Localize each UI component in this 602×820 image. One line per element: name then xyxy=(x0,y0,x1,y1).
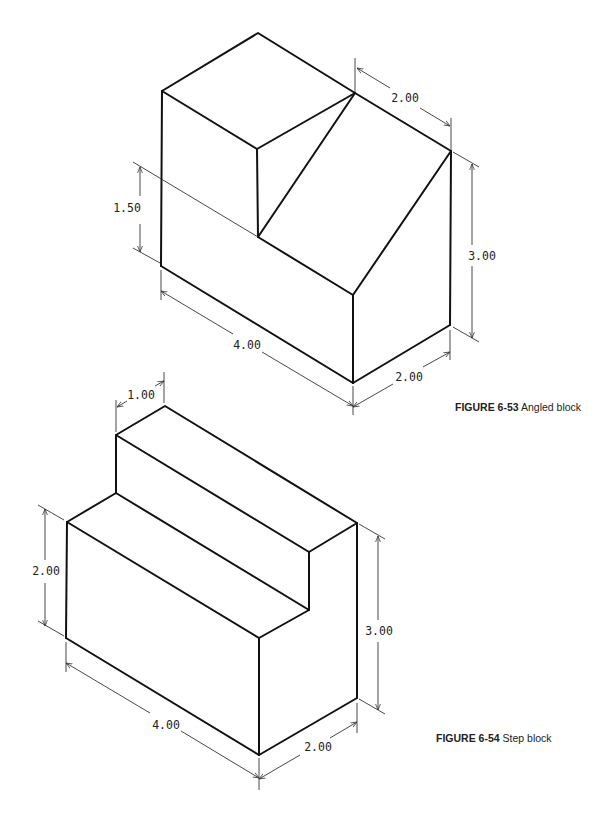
dim-right-height: 3.00 xyxy=(468,249,496,263)
angled-block-drawing xyxy=(161,33,451,383)
figure-caption-6-54: FIGURE 6-54 Step block xyxy=(436,732,552,744)
dim-length: 4.00 xyxy=(233,338,261,352)
step-block-drawing xyxy=(66,406,357,755)
dim-step-width: 1.00 xyxy=(127,388,155,402)
dim-top-depth: 2.00 xyxy=(391,91,419,105)
caption-label: FIGURE 6-53 xyxy=(455,401,519,413)
caption-title: Angled block xyxy=(521,401,581,413)
angled-block-dimensions: 2.00 1.50 3.00 4.00 2.00 xyxy=(113,58,496,415)
caption-title: Step block xyxy=(503,732,552,744)
dim-bottom-depth: 2.00 xyxy=(304,740,332,754)
dim-right-height: 3.00 xyxy=(365,624,393,638)
dim-left-height: 1.50 xyxy=(113,201,141,215)
caption-label: FIGURE 6-54 xyxy=(436,732,500,744)
dim-length: 4.00 xyxy=(152,718,180,732)
dim-bottom-depth: 2.00 xyxy=(395,370,423,384)
dim-left-height: 2.00 xyxy=(32,564,60,578)
figure-caption-6-53: FIGURE 6-53 Angled block xyxy=(455,401,581,413)
